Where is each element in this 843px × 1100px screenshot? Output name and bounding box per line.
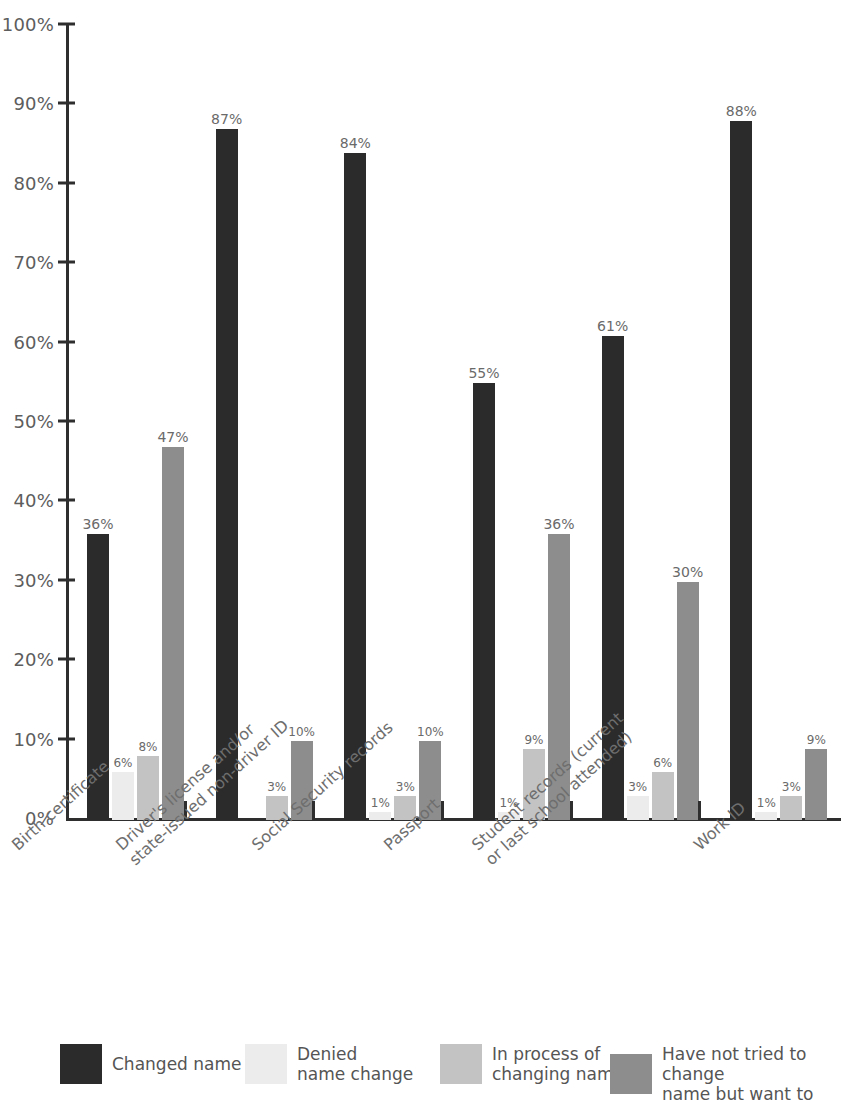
bar-group: 55%1%9%36% bbox=[455, 24, 584, 820]
bar[interactable]: 3% bbox=[780, 796, 802, 820]
legend-item[interactable]: In process of changing name bbox=[440, 1044, 624, 1084]
bars-area: 36%6%8%47%87%3%10%84%1%3%10%55%1%9%36%61… bbox=[69, 24, 841, 820]
x-axis-group-separator bbox=[698, 801, 701, 821]
y-axis-tick-label: 90% bbox=[13, 93, 54, 114]
y-axis-tick-label: 10% bbox=[13, 728, 54, 749]
bar[interactable]: 3% bbox=[627, 796, 649, 820]
y-axis-tick-mark bbox=[58, 102, 75, 105]
bar[interactable]: 84% bbox=[344, 153, 366, 820]
y-axis-tick-label: 40% bbox=[13, 490, 54, 511]
bar[interactable]: 1% bbox=[369, 812, 391, 820]
bar-value-label: 1% bbox=[371, 797, 390, 809]
legend-item-label: In process of changing name bbox=[492, 1044, 624, 1084]
bar-value-label: 6% bbox=[113, 757, 132, 769]
legend-color-swatch bbox=[60, 1044, 102, 1084]
bar-value-label: 36% bbox=[543, 517, 574, 531]
bar-group: 88%1%3%9% bbox=[712, 24, 841, 820]
bar-value-label: 10% bbox=[417, 726, 444, 738]
bar-value-label: 8% bbox=[138, 741, 157, 753]
y-axis-tick-label: 80% bbox=[13, 172, 54, 193]
y-axis-tick-mark bbox=[58, 737, 75, 740]
bar-value-label: 3% bbox=[782, 781, 801, 793]
legend-item[interactable]: Changed name bbox=[60, 1044, 242, 1084]
bar-value-label: 36% bbox=[82, 517, 113, 531]
legend-item-label: Have not tried to change name but want t… bbox=[662, 1044, 843, 1100]
y-axis-tick-label: 30% bbox=[13, 569, 54, 590]
legend-item-label: Changed name bbox=[112, 1054, 242, 1074]
bar-value-label: 84% bbox=[340, 136, 371, 150]
y-axis-tick-label: 50% bbox=[13, 411, 54, 432]
legend-item-label: Denied name change bbox=[297, 1044, 413, 1084]
bar-value-label: 9% bbox=[524, 734, 543, 746]
bar[interactable]: 88% bbox=[730, 121, 752, 820]
y-axis-tick-label: 60% bbox=[13, 331, 54, 352]
bar[interactable]: 87% bbox=[216, 129, 238, 820]
bar-value-label: 9% bbox=[807, 734, 826, 746]
bar-value-label: 6% bbox=[653, 757, 672, 769]
grouped-bar-chart: 100%90%80%70%60%50%40%30%20%10%0% 36%6%8… bbox=[0, 0, 843, 1100]
bar-value-label: 3% bbox=[396, 781, 415, 793]
legend-item[interactable]: Have not tried to change name but want t… bbox=[610, 1044, 843, 1100]
bar[interactable]: 9% bbox=[805, 749, 827, 820]
y-axis-tick-mark bbox=[58, 261, 75, 264]
x-axis-category-labels: Birth certificateDriver's license and/or… bbox=[0, 828, 843, 1023]
y-axis-tick-label: 100% bbox=[2, 14, 54, 35]
bar[interactable]: 30% bbox=[677, 582, 699, 820]
y-axis-tick-label: 70% bbox=[13, 252, 54, 273]
chart-legend: Changed nameDenied name changeIn process… bbox=[0, 1032, 843, 1100]
legend-color-swatch bbox=[610, 1054, 652, 1094]
bar[interactable]: 55% bbox=[473, 383, 495, 820]
bar[interactable]: 6% bbox=[112, 772, 134, 820]
bar-value-label: 61% bbox=[597, 319, 628, 333]
y-axis-tick-mark bbox=[58, 420, 75, 423]
legend-item[interactable]: Denied name change bbox=[245, 1044, 413, 1084]
bar-value-label: 3% bbox=[267, 781, 286, 793]
bar[interactable]: 6% bbox=[652, 772, 674, 820]
y-axis-tick-mark bbox=[58, 658, 75, 661]
plot-area: 100%90%80%70%60%50%40%30%20%10%0% 36%6%8… bbox=[0, 0, 843, 835]
bar-group: 87%3%10% bbox=[198, 24, 327, 820]
y-axis-labels: 100%90%80%70%60%50%40%30%20%10%0% bbox=[0, 0, 58, 835]
bar[interactable]: 1% bbox=[755, 812, 777, 820]
y-axis-tick-mark bbox=[58, 181, 75, 184]
bar-value-label: 1% bbox=[757, 797, 776, 809]
legend-color-swatch bbox=[440, 1044, 482, 1084]
bar-value-label: 3% bbox=[628, 781, 647, 793]
y-axis-tick-mark bbox=[58, 340, 75, 343]
y-axis-tick-mark bbox=[58, 499, 75, 502]
bar-value-label: 55% bbox=[468, 366, 499, 380]
bar-value-label: 10% bbox=[288, 726, 315, 738]
bar-group: 84%1%3%10% bbox=[326, 24, 455, 820]
bar-group: 61%3%6%30% bbox=[584, 24, 713, 820]
bar-value-label: 30% bbox=[672, 565, 703, 579]
bar-value-label: 87% bbox=[211, 112, 242, 126]
bar-value-label: 47% bbox=[157, 430, 188, 444]
legend-color-swatch bbox=[245, 1044, 287, 1084]
y-axis-tick-mark bbox=[58, 23, 75, 26]
bar[interactable]: 47% bbox=[162, 447, 184, 820]
y-axis-tick-mark bbox=[58, 578, 75, 581]
bar-value-label: 88% bbox=[726, 104, 757, 118]
bar-group: 36%6%8%47% bbox=[69, 24, 198, 820]
y-axis-tick-label: 20% bbox=[13, 649, 54, 670]
x-axis-group-separator bbox=[570, 801, 573, 821]
